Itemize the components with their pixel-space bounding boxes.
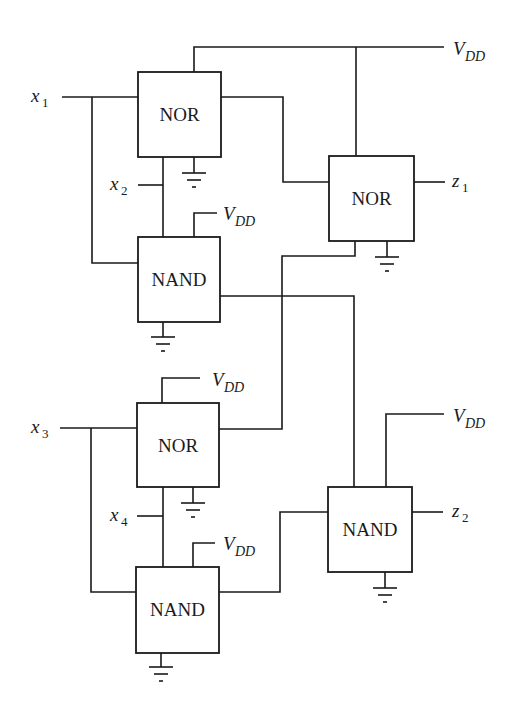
svg-text:2: 2 xyxy=(121,183,128,198)
vdd-label-top: V DD xyxy=(453,38,485,64)
gate-label: NOR xyxy=(159,104,199,125)
ground-icon xyxy=(182,157,206,187)
vdd-label-nand3: V DD xyxy=(453,405,485,431)
gate-label: NOR xyxy=(351,188,391,209)
svg-text:4: 4 xyxy=(121,514,128,529)
svg-text:DD: DD xyxy=(464,49,485,64)
circuit-diagram: NOR NOR NAND NOR NAND NAND x 1 x 2 x 3 x… xyxy=(0,0,519,718)
nor3-vdd-stub xyxy=(162,378,200,403)
svg-text:DD: DD xyxy=(464,416,485,431)
nand4-vdd-stub xyxy=(193,543,215,567)
output-label-z1: z 1 xyxy=(451,170,469,195)
input-label-x1: x 1 xyxy=(30,85,49,110)
svg-text:x: x xyxy=(30,85,40,106)
nand1-vdd-stub xyxy=(194,213,217,237)
ground-icon xyxy=(375,241,399,271)
ground-icon xyxy=(151,322,175,351)
svg-text:x: x xyxy=(109,504,119,525)
svg-text:DD: DD xyxy=(234,544,255,559)
svg-text:3: 3 xyxy=(42,426,49,441)
gate-label: NOR xyxy=(158,435,198,456)
gate-label: NAND xyxy=(343,519,398,540)
svg-text:DD: DD xyxy=(234,214,255,229)
vdd-label-nand1: V DD xyxy=(223,203,255,229)
nor2-to-nor3 xyxy=(219,241,355,429)
svg-text:x: x xyxy=(109,173,119,194)
ground-icon xyxy=(181,487,205,517)
nand3-vdd-stub xyxy=(386,414,444,487)
output-label-z2: z 2 xyxy=(451,500,469,525)
vdd-label-nor3: V DD xyxy=(212,369,244,395)
input-label-x2: x 2 xyxy=(109,173,128,198)
gate-nor2: NOR xyxy=(329,156,414,241)
gate-nand1: NAND xyxy=(138,237,220,322)
gate-label: NAND xyxy=(150,599,205,620)
input-label-x3: x 3 xyxy=(30,416,49,441)
svg-text:x: x xyxy=(30,416,40,437)
vdd-label-nand4: V DD xyxy=(223,533,255,559)
svg-text:1: 1 xyxy=(42,95,49,110)
svg-text:z: z xyxy=(451,500,460,521)
svg-text:2: 2 xyxy=(462,510,469,525)
input-label-x4: x 4 xyxy=(109,504,128,529)
svg-text:z: z xyxy=(451,170,460,191)
nor1-to-nor2 xyxy=(221,97,329,182)
vdd-rail-top xyxy=(194,47,444,72)
ground-icon xyxy=(149,653,173,681)
gate-nor1: NOR xyxy=(138,72,221,157)
ground-icon xyxy=(373,572,397,602)
svg-text:DD: DD xyxy=(223,380,244,395)
svg-text:1: 1 xyxy=(462,180,469,195)
gate-label: NAND xyxy=(152,269,207,290)
gate-nor3: NOR xyxy=(137,403,219,487)
gate-nand4: NAND xyxy=(136,567,219,653)
gate-nand3: NAND xyxy=(328,487,412,572)
